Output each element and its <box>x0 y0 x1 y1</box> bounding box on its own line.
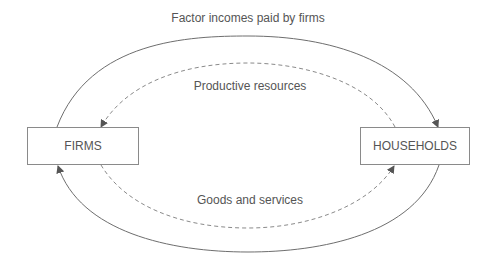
households-node: HOUSEHOLDS <box>360 127 470 165</box>
spending-arrow <box>58 165 439 252</box>
firms-label: FIRMS <box>64 139 101 153</box>
goods-services-label: Goods and services <box>197 193 303 207</box>
factor-incomes-label: Factor incomes paid by firms <box>171 11 324 25</box>
productive-resources-arrow <box>101 63 395 127</box>
households-label: HOUSEHOLDS <box>373 139 457 153</box>
productive-resources-label: Productive resources <box>194 79 307 93</box>
firms-node: FIRMS <box>27 127 139 165</box>
